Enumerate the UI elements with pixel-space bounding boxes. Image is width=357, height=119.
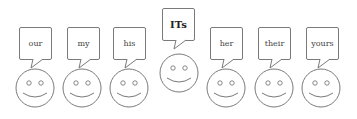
speech-bubble: our xyxy=(19,27,52,60)
pronoun-label: his xyxy=(124,39,136,48)
smiley-face-icon xyxy=(205,67,247,109)
smiley-face-icon xyxy=(108,67,150,109)
pronoun-label: yours xyxy=(311,39,333,48)
speech-bubble: yours xyxy=(306,27,339,60)
smiley-face-icon xyxy=(158,52,200,94)
pronoun-label: their xyxy=(265,39,284,48)
pronoun-label: my xyxy=(77,39,89,48)
speech-bubble: their xyxy=(258,27,291,60)
speech-bubble: his xyxy=(113,27,146,60)
pronoun-label: our xyxy=(29,39,43,48)
smiley-face-icon xyxy=(253,67,295,109)
smiley-face-icon xyxy=(61,67,103,109)
speech-bubble: my xyxy=(67,27,100,60)
smiley-face-icon xyxy=(14,67,56,109)
pronoun-label: her xyxy=(220,39,234,48)
speech-bubble: ITs xyxy=(162,8,195,41)
pronoun-label: ITs xyxy=(170,19,187,30)
speech-bubble: her xyxy=(210,27,243,60)
smiley-face-icon xyxy=(300,67,342,109)
